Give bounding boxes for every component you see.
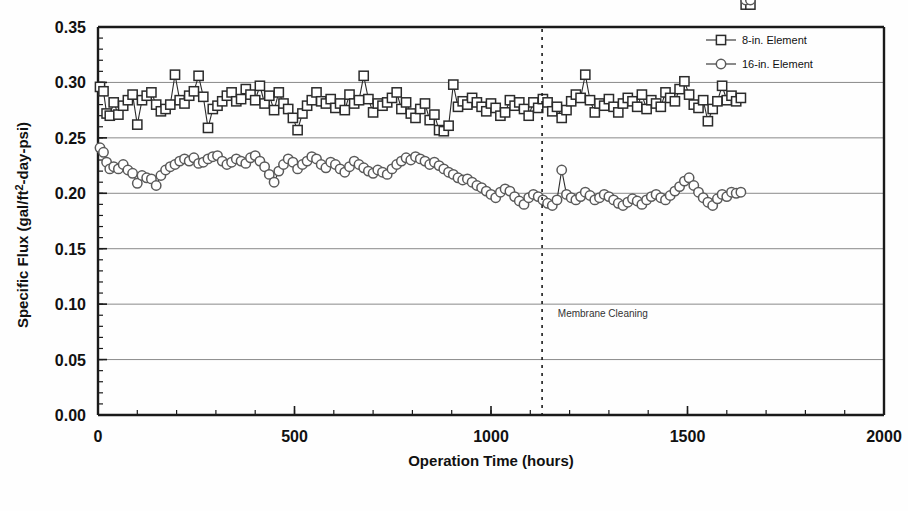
data-point-square [354,96,363,105]
annotations: Membrane Cleaning [542,29,648,415]
data-point-square [552,102,561,111]
data-point-square [402,98,411,107]
data-point-square [590,108,599,117]
legend-marker-circle [716,59,725,68]
y-tick-label: 0.00 [55,407,86,424]
data-point-square [670,97,679,106]
data-point-square [703,117,712,126]
x-tick-labels: 0500100015002000 [94,428,902,445]
x-tick-label: 1500 [670,428,706,445]
legend-marker-square [716,35,725,44]
data-point-square [562,106,571,115]
y-tick-labels: 0.000.050.100.150.200.250.300.35 [55,19,86,424]
data-series [95,0,755,210]
y-tick-label: 0.20 [55,185,86,202]
data-point-square [109,98,118,107]
y-tick-label: 0.35 [55,19,86,36]
specific-flux-chart: Membrane Cleaning 0.000.050.100.150.200.… [0,0,908,511]
data-point-square [284,104,293,113]
data-point-square [255,81,264,90]
x-tick-label: 0 [94,428,103,445]
data-point-circle [746,0,755,5]
data-point-square [170,70,179,79]
y-tick-label: 0.25 [55,130,86,147]
data-point-circle [152,181,161,190]
data-point-square [736,93,745,102]
legend: 8-in. Element16-in. Element [706,34,813,70]
y-axis-title-tail: -day-psi) [14,122,31,185]
data-point-circle [552,195,561,204]
data-point-square [265,91,274,100]
x-tick-label: 2000 [866,428,902,445]
plot-frame [98,27,884,415]
data-point-circle [99,148,108,157]
page-caption-ghost [150,494,770,508]
data-point-square [203,123,212,132]
legend-label-8in: 8-in. Element [742,34,807,46]
data-point-square [237,95,246,104]
y-axis-title: Specific Flux (gal/ft2-day-psi) [13,122,31,328]
data-point-square [501,108,510,117]
data-point-square [194,71,203,80]
data-point-square [444,121,453,130]
data-point-square [147,88,156,97]
data-point-square [133,120,142,129]
data-point-square [581,70,590,79]
data-point-square [270,106,279,115]
data-point-square [656,102,665,111]
svg-text:Specific Flux (gal/ft2-day-psi: Specific Flux (gal/ft2-day-psi) [13,122,31,328]
data-point-square [449,80,458,89]
data-point-square [637,90,646,99]
membrane-cleaning-label: Membrane Cleaning [558,308,648,319]
data-point-square [199,92,208,101]
data-point-square [340,106,349,115]
data-point-square [312,88,321,97]
data-point-square [642,104,651,113]
data-point-square [585,96,594,105]
x-tick-label: 500 [281,428,308,445]
data-point-square [524,111,533,120]
data-point-square [713,97,722,106]
data-point-circle [557,165,566,174]
data-point-square [718,81,727,90]
data-point-square [345,90,354,99]
chart-figure: Membrane Cleaning 0.000.050.100.150.200.… [0,0,908,511]
x-axis-title: Operation Time (hours) [408,452,574,469]
y-tick-label: 0.30 [55,74,86,91]
data-point-square [699,96,708,105]
data-point-square [411,113,420,122]
data-point-square [166,100,175,109]
data-point-circle [128,169,137,178]
data-point-circle [269,178,278,187]
data-point-circle [736,188,745,197]
data-point-square [227,88,236,97]
data-point-square [576,93,585,102]
y-tick-label: 0.15 [55,241,86,258]
y-tick-label: 0.05 [55,352,86,369]
data-point-square [420,99,429,108]
legend-label-16in: 16-in. Element [742,58,813,70]
data-point-square [99,87,108,96]
data-point-square [326,95,335,104]
data-point-square [369,108,378,117]
data-point-square [288,113,297,122]
data-point-square [359,71,368,80]
data-point-square [543,98,552,107]
data-point-square [364,95,373,104]
data-point-square [105,111,114,120]
y-tick-label: 0.10 [55,296,86,313]
data-point-square [128,90,137,99]
y-axis-title-lead: Specific Flux (gal/ft [14,191,31,329]
data-point-square [430,110,439,119]
data-point-square [293,126,302,135]
data-point-square [392,88,401,97]
data-point-square [685,90,694,99]
axis-ticks [98,27,884,415]
data-point-square [614,108,623,117]
data-point-square [251,96,260,105]
data-point-square [189,87,198,96]
series-8in [95,0,755,136]
data-point-square [633,102,642,111]
data-point-square [114,110,123,119]
data-point-square [680,77,689,86]
